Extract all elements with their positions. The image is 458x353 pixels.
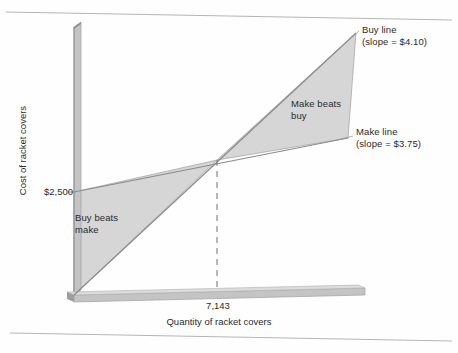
figure-top-border <box>6 12 452 20</box>
y-axis-face <box>74 22 81 295</box>
buy-beats-make-label: Buy beats make <box>75 212 118 236</box>
x-axis-tick-label-breakeven: 7,143 <box>196 300 240 311</box>
x-axis-title: Quantity of racket covers <box>86 316 352 327</box>
make-beats-buy-label: Make beats buy <box>291 98 341 122</box>
y-axis-title: Cost of racket covers <box>17 86 28 216</box>
break-even-chart-figure: Buy line (slope = $4.10) Make line (slop… <box>0 0 458 353</box>
figure-bottom-border <box>10 333 452 341</box>
buy-line-label: Buy line (slope = $4.10) <box>362 24 427 48</box>
make-line-label: Make line (slope = $3.75) <box>356 126 421 150</box>
make-line <box>74 138 348 192</box>
